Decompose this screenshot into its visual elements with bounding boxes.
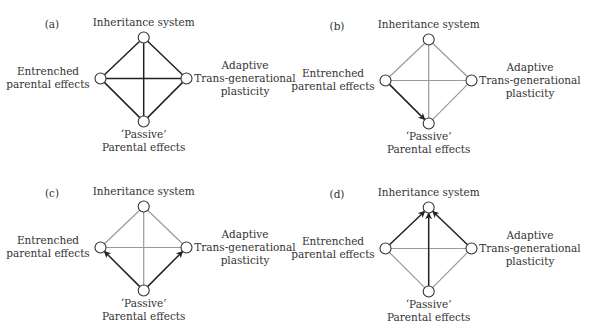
label-right-line: Trans-generational [479,242,581,254]
edge-top-right [148,210,183,243]
node-top [138,201,149,212]
edge-top-right [433,43,468,76]
label-left-line: Entrenched [17,234,79,246]
label-right-line: plasticity [221,254,270,266]
edge-right-bottom [433,252,468,287]
label-top-line: Inheritance system [93,185,195,197]
label-left-line: Entrenched [302,67,364,79]
panel-d: (d)Inheritance systemEntrenchedparental … [291,186,581,323]
node-left [380,243,391,254]
label-left-line: parental effects [6,247,90,259]
label-right-line: Trans-generational [194,241,296,253]
label-right-line: plasticity [221,85,270,97]
label-left-line: Entrenched [17,65,79,77]
panel-a: (a)Inheritance systemEntrenchedparental … [6,16,296,153]
label-right: AdaptiveTrans-generationalplasticity [479,61,581,99]
label-top: Inheritance system [93,16,195,28]
panel-b: (b)Inheritance systemEntrenchedparental … [291,18,581,155]
edge-right-bottom [433,84,468,119]
label-bottom-line: Parental effects [387,311,470,323]
label-left: Entrenchedparental effects [6,234,90,259]
label-left: Entrenchedparental effects [291,67,375,92]
node-bottom [138,285,149,296]
edge-left-bottom-active [104,82,139,117]
label-bottom-line: Parental effects [387,143,470,155]
node-top [423,202,434,213]
label-right-line: plasticity [506,87,555,99]
node-right [466,243,477,254]
label-left-line: parental effects [6,78,90,90]
edge-left-bottom [389,252,424,287]
node-bottom [423,286,434,297]
label-left-line: parental effects [291,248,375,260]
label-bottom: ‘Passive’Parental effects [102,297,185,322]
label-bottom-line: ‘Passive’ [121,297,167,309]
four-panel-network-diagram: (a)Inheritance systemEntrenchedparental … [0,0,591,334]
label-right: AdaptiveTrans-generationalplasticity [194,228,296,266]
label-right-line: Adaptive [220,228,268,240]
label-bottom: ‘Passive’Parental effects [387,130,470,155]
edge-right-top-arrow [433,211,468,244]
label-top: Inheritance system [378,186,480,198]
edge-top-right-active [148,41,183,74]
edge-bottom-left-arrow [104,251,139,286]
edge-top-left [389,43,424,76]
label-right-line: Trans-generational [194,72,296,84]
label-bottom: ‘Passive’Parental effects [387,298,470,323]
label-left: Entrenchedparental effects [291,235,375,260]
node-left [95,73,106,84]
edge-top-left-active [104,41,139,74]
label-top: Inheritance system [378,18,480,30]
node-bottom [138,116,149,127]
node-left [380,75,391,86]
label-right: AdaptiveTrans-generationalplasticity [194,59,296,97]
label-left-line: parental effects [291,80,375,92]
panel-label: (c) [45,187,59,199]
node-bottom [423,118,434,129]
node-right [466,75,477,86]
label-right: AdaptiveTrans-generationalplasticity [479,229,581,267]
edge-top-left [104,210,139,243]
label-right-line: Adaptive [505,61,553,73]
node-left [95,242,106,253]
edge-bottom-right-arrow [148,251,183,286]
node-right [181,242,192,253]
label-left: Entrenchedparental effects [6,65,90,90]
label-top-line: Inheritance system [93,16,195,28]
label-right-line: Adaptive [220,59,268,71]
label-bottom-line: ‘Passive’ [121,128,167,140]
label-right-line: Trans-generational [479,74,581,86]
label-top-line: Inheritance system [378,186,480,198]
label-top-line: Inheritance system [378,18,480,30]
label-right-line: Adaptive [505,229,553,241]
panel-label: (d) [330,188,345,200]
node-right [181,73,192,84]
label-top: Inheritance system [93,185,195,197]
label-right-line: plasticity [506,255,555,267]
edge-right-bottom-active [148,82,183,117]
label-bottom-line: ‘Passive’ [406,130,452,142]
label-bottom-line: Parental effects [102,310,185,322]
panel-label: (a) [45,18,59,30]
panel-c: (c)Inheritance systemEntrenchedparental … [6,185,296,322]
label-bottom-line: ‘Passive’ [406,298,452,310]
node-top [423,34,434,45]
edge-left-bottom-arrow [389,84,424,119]
edge-left-top-arrow [389,211,424,244]
panel-label: (b) [330,20,345,32]
label-bottom: ‘Passive’Parental effects [102,128,185,153]
node-top [138,32,149,43]
label-bottom-line: Parental effects [102,141,185,153]
label-left-line: Entrenched [302,235,364,247]
